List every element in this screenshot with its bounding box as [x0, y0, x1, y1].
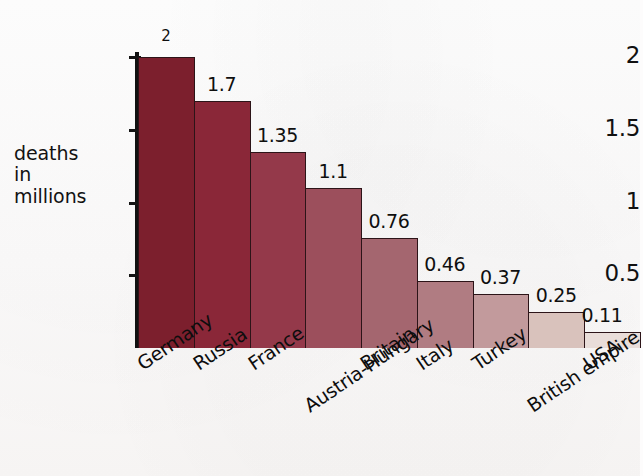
bar-value-label: 1.7: [194, 73, 250, 95]
plot-area: 21.71.351.10.760.460.370.250.11: [138, 40, 640, 348]
bar: [138, 57, 195, 348]
bar-value-label: 0.46: [417, 253, 473, 275]
bar-value-label: 1.1: [305, 160, 361, 182]
bar-value-label: 0.25: [528, 284, 584, 306]
bar: [250, 152, 307, 348]
bar-value-label: 2: [138, 27, 194, 45]
bar: [305, 188, 362, 348]
bar-value-label: 1.35: [250, 124, 306, 146]
bar-value-label: 0.76: [361, 210, 417, 232]
bar-value-label: 0.11: [574, 304, 630, 326]
bar-value-label: 0.37: [473, 266, 529, 288]
y-axis-title: deaths in millions: [14, 143, 86, 207]
